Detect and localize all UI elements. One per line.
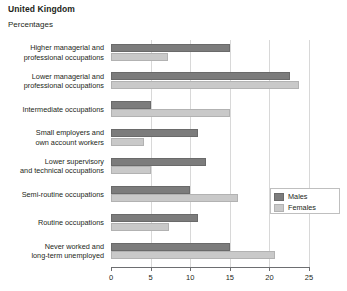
x-axis-tick (230, 267, 231, 271)
bar-males (111, 72, 290, 80)
x-axis-tick (309, 267, 310, 271)
x-axis-tick-label: 10 (186, 273, 194, 282)
category-label: Small employers and own account workers (35, 128, 104, 146)
x-axis-tick-label: 15 (226, 273, 234, 282)
category-label: Lower managerial and professional occupa… (24, 72, 104, 90)
bar-males (111, 214, 198, 222)
x-axis-tick (111, 267, 112, 271)
x-axis-tick (190, 267, 191, 271)
category-label: Routine occupations (38, 218, 104, 227)
bar-females (111, 194, 238, 202)
bar-females (111, 81, 299, 89)
bar-males (111, 243, 230, 251)
bar-males (111, 129, 198, 137)
bar-males (111, 186, 190, 194)
bar-females (111, 223, 169, 231)
x-axis-tick-label: 0 (109, 273, 113, 282)
bar-females (111, 166, 151, 174)
bar-males (111, 158, 206, 166)
chart-container: United Kingdom Percentages Higher manage… (0, 0, 347, 291)
legend-swatch-males-icon (274, 193, 284, 201)
legend-label-males: Males (288, 193, 307, 201)
legend-item-males: Males (274, 192, 336, 202)
category-label: Higher managerial and professional occup… (24, 43, 104, 61)
legend-swatch-females-icon (274, 204, 284, 212)
gridline (309, 40, 310, 267)
chart-subtitle: Percentages (8, 20, 53, 29)
legend: Males Females (270, 188, 340, 214)
x-axis-tick (269, 267, 270, 271)
bar-females (111, 53, 168, 61)
category-label: Never worked and long-term unemployed (31, 242, 104, 260)
legend-label-females: Females (288, 204, 316, 212)
chart-title: United Kingdom (8, 4, 75, 14)
legend-item-females: Females (274, 203, 336, 213)
x-axis-line (111, 267, 310, 268)
x-axis-tick (151, 267, 152, 271)
bar-males (111, 101, 151, 109)
bar-females (111, 109, 230, 117)
category-label: Semi-routine occupations (22, 190, 104, 199)
bar-females (111, 138, 144, 146)
bar-females (111, 251, 275, 259)
bar-males (111, 44, 230, 52)
category-label: Lower supervisory and technical occupati… (20, 157, 104, 175)
x-axis-tick-label: 5 (149, 273, 153, 282)
x-axis-tick-label: 20 (265, 273, 273, 282)
x-axis-tick-label: 25 (305, 273, 313, 282)
category-label: Intermediate occupations (22, 105, 104, 114)
